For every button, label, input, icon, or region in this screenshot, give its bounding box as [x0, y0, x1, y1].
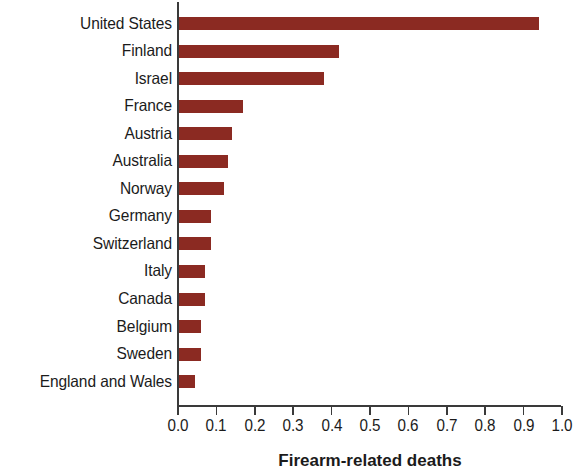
x-axis-tick [177, 406, 179, 415]
category-label: United States [10, 15, 172, 32]
category-label: England and Wales [10, 373, 172, 390]
x-axis-tick-label: 0.3 [272, 417, 314, 435]
category-label: Austria [10, 125, 172, 142]
bar [178, 265, 205, 278]
bar [178, 45, 339, 58]
x-axis-tick-label: 0.7 [426, 417, 468, 435]
bar [178, 182, 224, 195]
category-label: Australia [10, 152, 172, 169]
x-axis-tick [446, 406, 448, 415]
x-axis-tick-label: 0.1 [195, 417, 237, 435]
bar [178, 100, 243, 113]
x-axis-tick [216, 406, 218, 415]
bar [178, 320, 201, 333]
x-axis-tick-label: 0.9 [503, 417, 545, 435]
x-axis-tick [331, 406, 333, 415]
x-axis-tick-label: 1.0 [541, 417, 577, 435]
category-label: Finland [10, 42, 172, 59]
category-label: Italy [10, 262, 172, 279]
bar [178, 17, 539, 30]
plot-area [178, 0, 572, 406]
x-axis-tick [254, 406, 256, 415]
bar [178, 210, 211, 223]
x-axis-tick [408, 406, 410, 415]
y-axis-line [177, 2, 179, 407]
x-axis-tick [561, 406, 563, 415]
x-axis-tick [523, 406, 525, 415]
x-axis-tick-label: 0.8 [464, 417, 506, 435]
bar [178, 127, 232, 140]
category-label: Israel [10, 70, 172, 87]
x-axis-tick [369, 406, 371, 415]
bar [178, 72, 324, 85]
x-axis-tick-label: 0.5 [349, 417, 391, 435]
x-axis-tick-label: 0.4 [311, 417, 353, 435]
x-axis-tick-label: 0.6 [387, 417, 429, 435]
category-label: Canada [10, 290, 172, 307]
category-label: Germany [10, 207, 172, 224]
x-axis-title: Firearm-related deaths [178, 452, 562, 469]
bar [178, 237, 211, 250]
x-axis-tick-label: 0.2 [234, 417, 276, 435]
category-label: Belgium [10, 318, 172, 335]
x-axis-tick-label: 0.0 [157, 417, 199, 435]
bar [178, 155, 228, 168]
x-axis-tick [292, 406, 294, 415]
category-label: France [10, 97, 172, 114]
category-label: Sweden [10, 345, 172, 362]
category-axis-labels: United StatesFinlandIsraelFranceAustriaA… [0, 0, 172, 406]
bar [178, 348, 201, 361]
category-label: Switzerland [10, 235, 172, 252]
x-axis-tick [484, 406, 486, 415]
bar [178, 375, 195, 388]
category-label: Norway [10, 180, 172, 197]
bar [178, 293, 205, 306]
